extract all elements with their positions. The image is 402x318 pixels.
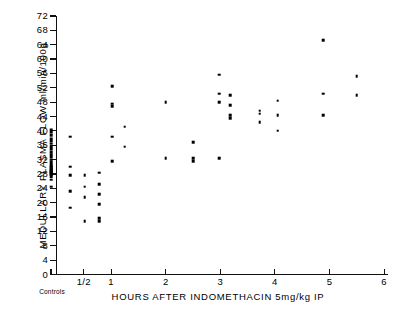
data-point bbox=[322, 92, 325, 95]
data-point bbox=[218, 101, 221, 104]
data-point bbox=[123, 145, 126, 148]
data-point bbox=[229, 104, 232, 107]
y-tick-label: 40 bbox=[37, 126, 48, 136]
y-tick-label: 44 bbox=[37, 112, 48, 122]
data-point bbox=[98, 183, 101, 186]
data-point bbox=[69, 206, 72, 209]
data-point bbox=[69, 135, 72, 138]
data-point bbox=[123, 125, 126, 128]
y-tick-label: 48 bbox=[37, 97, 48, 107]
data-point bbox=[69, 174, 72, 177]
x-tick-mark bbox=[384, 269, 385, 275]
y-tick-label: 72 bbox=[37, 11, 48, 21]
y-tick-label: 12 bbox=[37, 226, 48, 236]
y-tick-label: 56 bbox=[37, 68, 48, 78]
y-tick-label: 4 bbox=[42, 255, 48, 265]
x-tick-mark bbox=[220, 269, 221, 275]
data-point bbox=[98, 171, 101, 174]
y-tick-label: 36 bbox=[37, 140, 48, 150]
data-point bbox=[164, 101, 167, 104]
y-tick-label: 64 bbox=[37, 40, 48, 50]
data-point bbox=[98, 203, 101, 206]
x-tick-mark-controls bbox=[50, 269, 51, 275]
y-tick-label: 20 bbox=[37, 198, 48, 208]
data-point bbox=[84, 220, 87, 223]
x-tick-mark bbox=[83, 269, 84, 275]
data-point bbox=[50, 178, 53, 181]
data-point bbox=[218, 92, 221, 95]
y-tick-mark bbox=[50, 116, 56, 117]
data-point bbox=[258, 121, 261, 124]
y-tick-mark bbox=[50, 15, 56, 16]
y-tick-mark bbox=[50, 102, 56, 103]
x-tick-mark bbox=[329, 269, 330, 275]
data-point bbox=[322, 114, 325, 117]
scatter-plot-figure: MEDULLARY PLASMA FLOW ml/min/100g 048121… bbox=[0, 0, 402, 318]
data-point bbox=[84, 186, 87, 189]
y-tick-mark bbox=[50, 30, 56, 31]
data-point bbox=[229, 94, 232, 97]
data-point bbox=[111, 85, 114, 88]
data-point bbox=[192, 160, 195, 163]
data-point bbox=[276, 114, 279, 117]
data-point bbox=[164, 157, 167, 160]
x-tick-label: 4 bbox=[272, 277, 278, 287]
x-tick-label: 2 bbox=[163, 277, 169, 287]
data-point bbox=[84, 196, 87, 199]
x-tick-label: 3 bbox=[218, 277, 224, 287]
y-axis-line bbox=[56, 16, 57, 275]
data-point bbox=[50, 146, 53, 151]
data-point bbox=[258, 112, 261, 115]
y-tick-mark bbox=[50, 260, 56, 261]
y-tick-mark bbox=[50, 87, 56, 88]
data-point bbox=[50, 137, 53, 142]
data-point bbox=[356, 75, 359, 78]
data-point bbox=[322, 39, 325, 42]
data-point bbox=[192, 141, 195, 144]
data-point bbox=[218, 74, 221, 77]
data-point bbox=[229, 117, 232, 120]
data-point bbox=[69, 165, 72, 168]
data-point bbox=[276, 99, 279, 102]
data-point bbox=[356, 94, 359, 97]
data-point bbox=[276, 130, 279, 133]
data-point bbox=[111, 160, 114, 163]
y-tick-mark bbox=[50, 245, 56, 246]
y-tick-label: 0 bbox=[42, 270, 48, 280]
y-tick-label: 68 bbox=[37, 25, 48, 35]
y-tick-mark bbox=[50, 231, 56, 232]
x-tick-mark bbox=[111, 269, 112, 275]
y-tick-label: 16 bbox=[37, 212, 48, 222]
y-tick-mark bbox=[50, 202, 56, 203]
y-tick-mark bbox=[50, 44, 56, 45]
x-tick-label: 5 bbox=[327, 277, 333, 287]
x-tick-mark bbox=[165, 269, 166, 275]
data-point bbox=[50, 186, 53, 189]
y-tick-label: 28 bbox=[37, 169, 48, 179]
data-point bbox=[111, 105, 114, 108]
y-tick-label: 24 bbox=[37, 183, 48, 193]
data-point bbox=[84, 174, 87, 177]
y-tick-mark bbox=[50, 216, 56, 217]
data-point bbox=[218, 157, 221, 160]
y-tick-mark bbox=[50, 73, 56, 74]
data-point bbox=[98, 220, 101, 223]
y-tick-label: 32 bbox=[37, 155, 48, 165]
y-tick-label: 52 bbox=[37, 83, 48, 93]
y-tick-label: 8 bbox=[42, 241, 48, 251]
data-point bbox=[50, 170, 53, 178]
x-tick-label: 6 bbox=[381, 277, 387, 287]
data-point bbox=[50, 128, 53, 133]
data-point bbox=[69, 190, 72, 193]
x-tick-mark bbox=[274, 269, 275, 275]
x-tick-label: 1 bbox=[108, 277, 114, 287]
y-tick-label: 60 bbox=[37, 54, 48, 64]
data-point bbox=[111, 135, 114, 138]
data-point bbox=[98, 193, 101, 196]
x-tick-label: 1/2 bbox=[77, 277, 91, 287]
y-tick-mark bbox=[50, 58, 56, 59]
x-axis-label: HOURS AFTER INDOMETHACIN 5mg/kg IP bbox=[0, 291, 402, 302]
